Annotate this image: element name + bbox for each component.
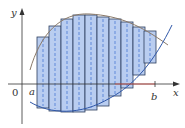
y-axis-arrow-icon [20,8,25,15]
x-axis-label: x [173,87,179,98]
x-axis-arrow-icon [173,82,180,87]
b-label: b [151,91,157,102]
area-between-curves-diagram: y x 0 a b [0,0,185,128]
a-label: a [29,86,35,97]
approximating-rectangles [37,15,156,112]
y-axis-label: y [10,7,17,18]
origin-label: 0 [12,87,18,98]
